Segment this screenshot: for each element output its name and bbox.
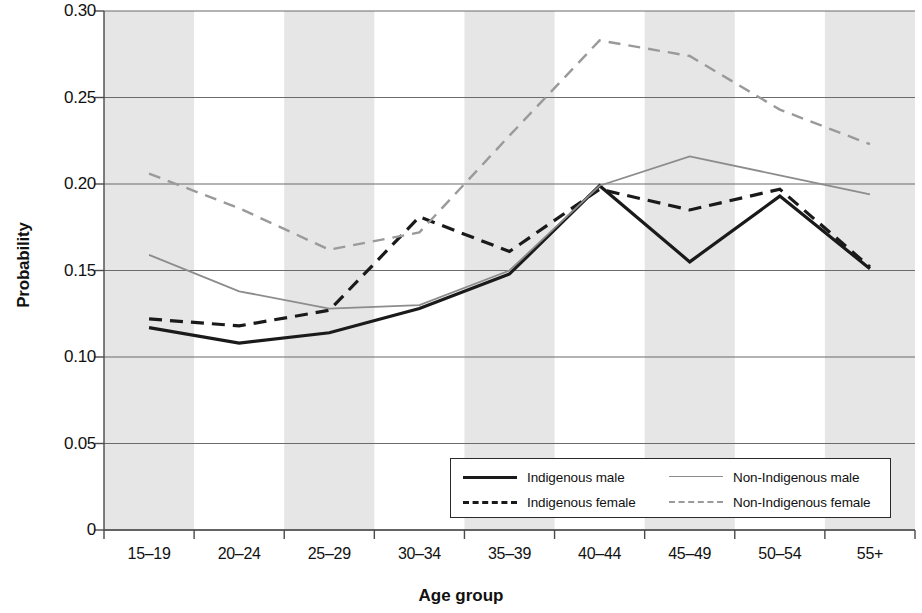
y-axis-tick-label: 0 <box>20 520 96 540</box>
y-axis-tick-label: 0.30 <box>20 1 96 21</box>
legend-entry-indigenous-male: Indigenous male <box>463 466 625 488</box>
legend-label-non-indigenous-male: Non-Indigenous male <box>733 470 859 485</box>
legend-swatch-indigenous-male <box>463 471 517 483</box>
x-axis-title: Age group <box>0 586 922 606</box>
x-axis-tick-label: 55+ <box>857 545 883 563</box>
y-axis-tick-label: 0.25 <box>20 88 96 108</box>
y-axis-tick-label: 0.05 <box>20 434 96 454</box>
x-axis-tick-label: 45–49 <box>668 545 711 563</box>
legend-entry-non-indigenous-male: Non-Indigenous male <box>669 466 859 488</box>
legend-swatch-non-indigenous-male <box>669 471 723 483</box>
y-axis-title: Probability <box>14 175 34 355</box>
x-axis-tick-label: 35–39 <box>488 545 531 563</box>
x-axis-tick-label: 15–19 <box>128 545 171 563</box>
legend-swatch-indigenous-female <box>463 496 517 508</box>
legend-swatch-non-indigenous-female <box>669 496 723 508</box>
legend-entry-indigenous-female: Indigenous female <box>463 491 636 513</box>
legend-label-indigenous-female: Indigenous female <box>527 495 636 510</box>
x-axis-tick-label: 25–29 <box>308 545 351 563</box>
legend-label-indigenous-male: Indigenous male <box>527 470 625 485</box>
x-axis-tick-label: 40–44 <box>578 545 621 563</box>
chart-figure: 00.050.100.150.200.250.30 15–1920–2425–2… <box>0 0 922 613</box>
legend-entry-non-indigenous-female: Non-Indigenous female <box>669 491 871 513</box>
x-axis-tick-label: 30–34 <box>398 545 441 563</box>
x-axis-tick-label: 20–24 <box>218 545 261 563</box>
x-axis-tick-label: 50–54 <box>758 545 801 563</box>
legend-label-non-indigenous-female: Non-Indigenous female <box>733 495 871 510</box>
chart-plot-area <box>0 0 922 613</box>
chart-legend: Indigenous male Indigenous female Non-In… <box>450 458 891 518</box>
